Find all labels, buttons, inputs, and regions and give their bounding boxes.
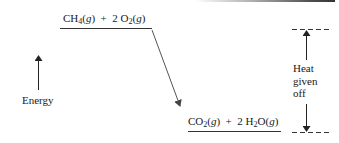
- heat-label-line-1: Heat: [293, 62, 317, 75]
- products-label: CO2(g) + 2 H2O(g): [188, 116, 278, 127]
- product-1-formula: CO: [188, 115, 203, 127]
- heat-label-line-2: given: [293, 75, 317, 88]
- heat-given-off-label: Heat given off: [293, 62, 317, 100]
- reaction-arrow: [152, 30, 180, 106]
- product-2-formula-tail: O: [258, 115, 266, 127]
- diagram-graphics: [0, 0, 339, 143]
- product-1-subscript: 2: [203, 120, 207, 129]
- product-1-state: g: [211, 115, 217, 127]
- product-2-coef: 2: [237, 115, 245, 127]
- product-2-state: g: [269, 115, 275, 127]
- reactant-2-subscript: 2: [129, 17, 133, 26]
- energy-diagram: CH4(g) + 2 O2(g) CO2(g) + 2 H2O(g) Energ…: [0, 0, 339, 143]
- reactant-1-formula: CH: [63, 12, 78, 24]
- energy-axis-label: Energy: [22, 94, 54, 107]
- reactant-2-state: g: [136, 12, 142, 24]
- reactant-2-coef: 2: [112, 12, 120, 24]
- heat-label-line-3: off: [293, 87, 317, 100]
- reactant-1-subscript: 4: [78, 17, 82, 26]
- product-2-formula: H: [246, 115, 254, 127]
- reactants-label: CH4(g) + 2 O2(g): [63, 13, 145, 24]
- reactant-2-formula: O: [121, 12, 129, 24]
- reactant-1-state: g: [86, 12, 92, 24]
